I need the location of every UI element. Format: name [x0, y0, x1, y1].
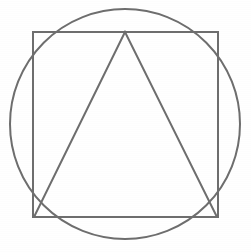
canvas-background: [0, 0, 251, 252]
figure-svg: [0, 0, 251, 252]
geometric-figure-canvas: [0, 0, 251, 252]
